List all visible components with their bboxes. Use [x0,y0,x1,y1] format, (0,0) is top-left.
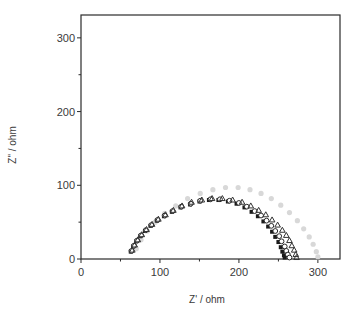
data-point [307,234,312,239]
data-point [210,187,215,192]
y-axis: 0100200300 [57,32,81,265]
data-point [223,185,228,190]
data-point [185,196,190,201]
data-point [248,203,254,208]
data-point [269,196,274,201]
x-tick-label: 0 [78,266,84,278]
data-series-layer [129,185,321,260]
x-axis-title: Z' / ohm [189,294,225,305]
data-point [287,238,293,243]
y-tick-label: 100 [57,179,75,191]
data-point [236,185,241,190]
x-tick-label: 200 [230,266,248,278]
data-point [264,218,269,223]
data-point [277,234,282,239]
data-point [269,217,275,222]
data-point [287,255,292,260]
data-point [279,239,284,244]
data-point [287,210,292,215]
data-point [230,197,236,202]
data-point [315,254,320,259]
data-point [311,242,316,247]
series-3 [130,196,300,260]
data-point [301,226,306,231]
data-point [247,187,252,192]
data-point [314,249,319,254]
data-point [198,191,203,196]
data-point [256,207,262,212]
data-point [284,232,290,237]
y-axis-title: Z" / ohm [7,126,18,163]
x-tick-label: 300 [309,266,327,278]
series-1 [129,198,287,259]
x-axis: 0100200300 [78,259,327,278]
data-point [239,199,245,204]
data-point [273,229,278,234]
data-point [258,191,263,196]
data-point [269,223,274,228]
data-point [275,222,281,227]
data-point [280,227,286,232]
x-tick-label: 100 [151,266,169,278]
y-tick-label: 300 [57,32,75,44]
data-point [278,203,283,208]
y-tick-label: 200 [57,106,75,118]
data-point [295,218,300,223]
plot-border [81,15,340,259]
nyquist-plot: 0100200300 0100200300 Z' / ohm Z" / ohm [0,0,356,319]
y-tick-label: 0 [69,253,75,265]
data-point [263,212,269,217]
plot-frame [81,15,340,259]
